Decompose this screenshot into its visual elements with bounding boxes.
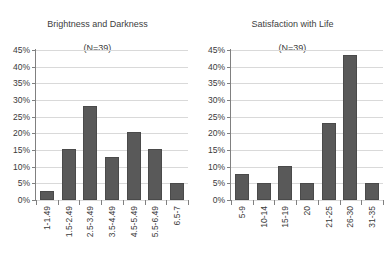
y-axis-tick-label: 20% (0, 128, 30, 138)
x-label-slot: 26-30 (340, 206, 362, 262)
y-axis-tick-label: 20% (195, 128, 225, 138)
bar-slot (79, 50, 101, 200)
y-axis-tick-label: 5% (195, 178, 225, 188)
y-axis-tick-label: 10% (195, 162, 225, 172)
bar-slot (231, 50, 253, 200)
bar-slot (340, 50, 362, 200)
chart-title-line1: Brightness and Darkness (47, 19, 148, 29)
bar-slot (253, 50, 275, 200)
bar-slot (296, 50, 318, 200)
x-axis-tick-label: 1-1.49 (42, 206, 52, 230)
x-axis-tick-label: 6.5-7 (172, 206, 182, 225)
chart-figure: Brightness and Darkness (N=39) 0%5%10%15… (0, 0, 390, 264)
x-axis-tick-label: 20 (302, 206, 312, 215)
x-tick-mark (123, 200, 124, 205)
x-tick-mark (166, 200, 167, 205)
plot-area: 0%5%10%15%20%25%30%35%40%45% (231, 50, 383, 200)
bar-slot (101, 50, 123, 200)
y-axis-tick-label: 40% (195, 62, 225, 72)
bar (257, 183, 271, 200)
bar (83, 106, 97, 200)
y-axis-tick-label: 0% (0, 195, 30, 205)
x-label-slot: 5.5-6.49 (145, 206, 167, 262)
x-axis-tick-label: 31-35 (367, 206, 377, 228)
x-axis-ticks (231, 200, 383, 205)
x-axis-tick-label: 1.5-2.49 (64, 206, 74, 237)
x-tick-mark (188, 200, 189, 205)
y-axis-tick-label: 25% (0, 112, 30, 122)
x-tick-mark (383, 200, 384, 205)
x-tick-mark (79, 200, 80, 205)
bar-series (231, 50, 383, 200)
y-axis-tick-label: 15% (0, 145, 30, 155)
bar (148, 149, 162, 200)
x-axis-tick-label: 4.5-5.49 (129, 206, 139, 237)
x-tick-mark (340, 200, 341, 205)
x-tick-mark (36, 200, 37, 205)
x-axis-tick-label: 5-9 (237, 206, 247, 218)
x-axis-tick-label: 5.5-6.49 (150, 206, 160, 237)
bar (170, 183, 184, 200)
x-axis-labels: 1-1.491.5-2.492.5-3.493.5-4.494.5-5.495.… (36, 206, 188, 262)
x-axis-tick-label: 15-19 (280, 206, 290, 228)
y-axis-tick-label: 30% (195, 95, 225, 105)
x-label-slot: 31-35 (361, 206, 383, 262)
bar-slot (145, 50, 167, 200)
y-axis-tick-label: 45% (195, 45, 225, 55)
bar-slot (166, 50, 188, 200)
bar-slot (36, 50, 58, 200)
chart-panel-satisfaction-with-life: Satisfaction with Life (N=39) 0%5%10%15%… (195, 0, 390, 264)
bar (322, 123, 336, 200)
x-label-slot: 21-25 (318, 206, 340, 262)
bar-series (36, 50, 188, 200)
x-axis-tick-label: 2.5-3.49 (85, 206, 95, 237)
x-label-slot: 4.5-5.49 (123, 206, 145, 262)
x-label-slot: 1-1.49 (36, 206, 58, 262)
x-label-slot: 10-14 (253, 206, 275, 262)
x-label-slot: 2.5-3.49 (79, 206, 101, 262)
plot-area: 0%5%10%15%20%25%30%35%40%45% (36, 50, 188, 200)
bar-slot (123, 50, 145, 200)
y-axis-tick-label: 30% (0, 95, 30, 105)
x-tick-mark (253, 200, 254, 205)
x-label-slot: 15-19 (274, 206, 296, 262)
x-axis-tick-label: 3.5-4.49 (107, 206, 117, 237)
bar (365, 183, 379, 200)
bar-slot (318, 50, 340, 200)
x-axis-ticks (36, 200, 188, 205)
y-axis-tick-label: 0% (195, 195, 225, 205)
x-label-slot: 3.5-4.49 (101, 206, 123, 262)
x-tick-mark (101, 200, 102, 205)
y-axis-tick-label: 40% (0, 62, 30, 72)
y-axis-tick-label: 15% (195, 145, 225, 155)
x-tick-mark (145, 200, 146, 205)
chart-panel-brightness-and-darkness: Brightness and Darkness (N=39) 0%5%10%15… (0, 0, 195, 264)
x-tick-mark (318, 200, 319, 205)
x-label-slot: 1.5-2.49 (58, 206, 80, 262)
x-axis-tick-label: 10-14 (259, 206, 269, 228)
y-axis-tick-label: 10% (0, 162, 30, 172)
bar (127, 132, 141, 200)
x-tick-mark (361, 200, 362, 205)
y-axis-tick-label: 25% (195, 112, 225, 122)
chart-title-line1: Satisfaction with Life (251, 19, 333, 29)
bar (235, 174, 249, 200)
x-tick-mark (274, 200, 275, 205)
x-axis-labels: 5-910-1415-192021-2526-3031-35 (231, 206, 383, 262)
bar-slot (58, 50, 80, 200)
x-label-slot: 5-9 (231, 206, 253, 262)
x-axis-tick-label: 21-25 (324, 206, 334, 228)
bar-slot (274, 50, 296, 200)
y-axis-tick-label: 5% (0, 178, 30, 188)
y-axis-tick-label: 35% (195, 78, 225, 88)
y-axis-tick-label: 45% (0, 45, 30, 55)
x-tick-mark (231, 200, 232, 205)
x-label-slot: 6.5-7 (166, 206, 188, 262)
bar (62, 149, 76, 200)
bar-slot (361, 50, 383, 200)
bar (343, 55, 357, 200)
x-tick-mark (296, 200, 297, 205)
y-axis-tick-label: 35% (0, 78, 30, 88)
x-label-slot: 20 (296, 206, 318, 262)
bar (40, 191, 54, 200)
